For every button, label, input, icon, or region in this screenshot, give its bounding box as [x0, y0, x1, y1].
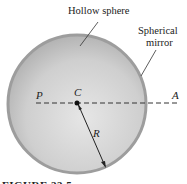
center-point — [75, 101, 80, 106]
spherical-mirror-label-line1: Spherical — [138, 25, 178, 36]
point-c-label: C — [74, 86, 82, 98]
radius-label: R — [92, 127, 100, 139]
hollow-sphere-diagram: Hollow sphere Spherical mirror P C A R F… — [0, 0, 187, 184]
spherical-mirror-label-line2: mirror — [146, 37, 173, 48]
mirror-leader — [141, 50, 156, 76]
point-a-label: A — [171, 89, 179, 101]
figure-caption: FIGURE 23.5 — [2, 179, 72, 184]
hollow-sphere-label: Hollow sphere — [68, 5, 130, 16]
point-p-label: P — [35, 89, 43, 101]
